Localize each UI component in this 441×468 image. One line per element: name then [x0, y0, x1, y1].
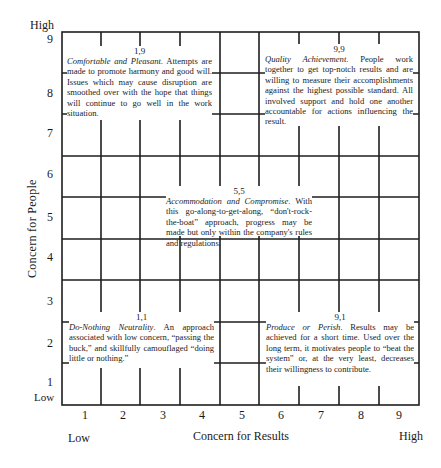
style-9-1-note: 9,1 Produce or Perish. Results may be ac… — [266, 312, 414, 386]
style-code: 5,5 — [166, 186, 312, 196]
x-tick-4: 4 — [192, 408, 212, 423]
style-code: 9,9 — [265, 44, 413, 54]
y-axis-low-label: Low — [34, 391, 54, 403]
x-axis-high-label: High — [399, 429, 423, 444]
x-axis-low-label: Low — [68, 431, 90, 446]
style-code: 1,9 — [67, 46, 212, 56]
x-tick-5: 5 — [232, 408, 252, 423]
y-axis-title: Concern for People — [25, 179, 40, 278]
y-tick-3: 3 — [33, 294, 53, 309]
y-tick-8: 8 — [33, 86, 53, 101]
x-tick-2: 2 — [113, 408, 133, 423]
y-tick-1: 1 — [33, 375, 53, 390]
x-tick-8: 8 — [351, 408, 371, 423]
x-tick-6: 6 — [271, 408, 291, 423]
style-description: . People work together to get top-notch … — [265, 54, 413, 126]
style-title: Comfortable and Pleasant — [67, 56, 161, 66]
style-5-5-note: 5,5 Accommodation and Compromise. With t… — [166, 186, 312, 236]
style-title: Do-Nothing Neutrality — [69, 322, 153, 332]
y-tick-7: 7 — [33, 126, 53, 141]
x-tick-7: 7 — [311, 408, 331, 423]
x-tick-1: 1 — [75, 408, 95, 423]
x-tick-3: 3 — [153, 408, 173, 423]
style-code: 9,1 — [266, 312, 414, 322]
y-axis-high-label: High — [30, 18, 54, 33]
x-axis-title: Concern for Results — [193, 429, 289, 444]
style-title: Accommodation and Compromise — [166, 196, 288, 206]
style-1-9-note: 1,9 Comfortable and Pleasant. Attempts a… — [67, 46, 212, 120]
style-title: Quality Achievement — [265, 54, 346, 64]
style-1-1-note: 1,1 Do-Nothing Neutrality. An approach a… — [69, 312, 214, 368]
style-9-9-note: 9,9 Quality Achievement. People work tog… — [265, 44, 413, 126]
style-code: 1,1 — [69, 312, 214, 322]
x-tick-9: 9 — [389, 408, 409, 423]
style-title: Produce or Perish — [266, 322, 340, 332]
y-tick-9: 9 — [33, 32, 53, 47]
y-tick-2: 2 — [33, 336, 53, 351]
